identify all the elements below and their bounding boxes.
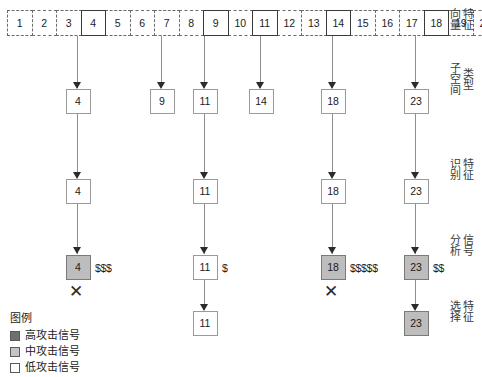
vector-cell-13[interactable]: 13: [301, 10, 327, 36]
node-14-subspace[interactable]: 14: [249, 89, 274, 114]
vector-cell-3[interactable]: 3: [56, 10, 82, 36]
node-18-subspace[interactable]: 18: [321, 89, 346, 114]
node-11-signal[interactable]: 11: [193, 255, 218, 280]
vector-cell-6[interactable]: 6: [130, 10, 156, 36]
legend-item-high: 高攻击信号: [10, 328, 80, 343]
vector-cell-2[interactable]: 2: [32, 10, 58, 36]
cost-label-18: $$$$$: [350, 262, 378, 274]
cost-label-23: $$: [433, 262, 444, 274]
arrow-23-r4: [411, 247, 419, 254]
vector-cell-4[interactable]: 4: [81, 10, 107, 36]
node-4-subspace[interactable]: 4: [66, 89, 91, 114]
legend-item-low: 低攻击信号: [10, 360, 80, 375]
arrow-11-r2: [200, 82, 208, 89]
node-23-signal[interactable]: 23: [404, 255, 429, 280]
arrow-18-r4: [328, 247, 336, 254]
stage-label-feature-selection: 特征 选择: [448, 300, 474, 322]
vector-cell-8[interactable]: 8: [179, 10, 205, 36]
stage-label-type-subspace: 类型 子空间: [448, 62, 474, 95]
vector-cell-9[interactable]: 9: [203, 10, 229, 36]
vector-cell-5[interactable]: 5: [105, 10, 131, 36]
arrow-14-r2: [256, 82, 264, 89]
edge-9-strip-r2: [161, 36, 162, 88]
stage-label-signal-analysis: 信号 分析: [448, 234, 474, 256]
edge-4-r2-r3: [77, 114, 78, 178]
legend-swatch-high-icon: [10, 331, 20, 341]
edge-23-r2-r3: [415, 114, 416, 178]
vector-cell-1[interactable]: 1: [7, 10, 33, 36]
edge-18-r2-r3: [332, 114, 333, 178]
node-23-selected[interactable]: 23: [404, 311, 429, 336]
arrow-23-r5: [411, 304, 419, 311]
vector-cell-10[interactable]: 10: [228, 10, 254, 36]
arrow-4-r3: [73, 172, 81, 179]
vector-cell-11[interactable]: 11: [252, 10, 278, 36]
node-18-signal[interactable]: 18: [321, 255, 346, 280]
reject-mark-18: ✕: [324, 283, 338, 300]
node-4-recognition[interactable]: 4: [66, 179, 91, 204]
cost-label-11: $: [222, 262, 228, 274]
vector-cell-7[interactable]: 7: [154, 10, 180, 36]
node-23-subspace[interactable]: 23: [404, 89, 429, 114]
node-11-selected[interactable]: 11: [193, 311, 218, 336]
legend-label-mid: 中攻击信号: [25, 344, 80, 359]
arrow-18-r2: [328, 82, 336, 89]
arrow-18-r3: [328, 172, 336, 179]
node-9-subspace[interactable]: 9: [150, 89, 175, 114]
legend-title: 图例: [10, 311, 80, 326]
arrow-11-r4: [200, 247, 208, 254]
legend-label-high: 高攻击信号: [25, 328, 80, 343]
reject-mark-4: ✕: [69, 283, 83, 300]
node-4-signal[interactable]: 4: [66, 255, 91, 280]
vector-cell-16[interactable]: 16: [375, 10, 401, 36]
arrow-9-r2: [157, 82, 165, 89]
edge-4-strip-r2: [77, 36, 78, 88]
arrow-11-r5: [200, 304, 208, 311]
arrow-4-r2: [73, 82, 81, 89]
node-18-recognition[interactable]: 18: [321, 179, 346, 204]
legend-label-low: 低攻击信号: [25, 360, 80, 375]
vector-cell-14[interactable]: 14: [326, 10, 352, 36]
vector-cell-15[interactable]: 15: [350, 10, 376, 36]
diagram-canvas: 1 2 3 4 5 6 7 8 9 10 11 12 13 14 15 16 1…: [0, 0, 482, 377]
legend-swatch-low-icon: [10, 363, 20, 373]
vector-cell-18[interactable]: 18: [424, 10, 450, 36]
arrow-23-r3: [411, 172, 419, 179]
arrow-4-r4: [73, 247, 81, 254]
node-11-recognition[interactable]: 11: [193, 179, 218, 204]
edge-18-strip-r2: [332, 36, 333, 88]
node-23-recognition[interactable]: 23: [404, 179, 429, 204]
vector-cell-12[interactable]: 12: [277, 10, 303, 36]
edge-11-strip-r2: [204, 36, 205, 88]
edge-14-strip-r2: [260, 36, 261, 88]
arrow-23-r2: [411, 82, 419, 89]
vector-cell-17[interactable]: 17: [399, 10, 425, 36]
edge-11-r2-r3: [204, 114, 205, 178]
stage-label-feature-recognition: 特征 识别: [448, 158, 474, 180]
legend-swatch-mid-icon: [10, 347, 20, 357]
stage-label-feature-vector: 特征 向量: [448, 8, 474, 30]
legend-item-mid: 中攻击信号: [10, 344, 80, 359]
legend: 图例 高攻击信号 中攻击信号 低攻击信号: [10, 311, 80, 375]
feature-vector-strip: 1 2 3 4 5 6 7 8 9 10 11 12 13 14 15 16 1…: [7, 10, 482, 36]
edge-23-strip-r2: [415, 36, 416, 88]
cost-label-4: $$$: [95, 262, 112, 274]
arrow-11-r3: [200, 172, 208, 179]
node-11-subspace[interactable]: 11: [193, 89, 218, 114]
